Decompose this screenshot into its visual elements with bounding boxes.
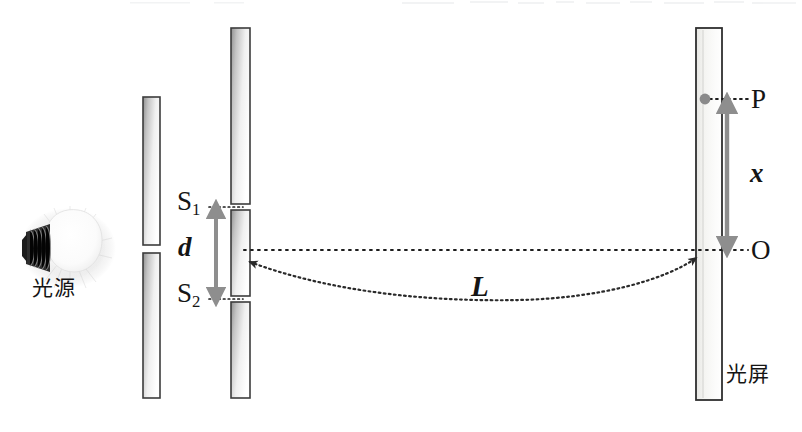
observation-screen bbox=[696, 28, 722, 400]
double-slit-plate-lower bbox=[231, 302, 250, 398]
double-slit-plate-upper bbox=[231, 28, 250, 204]
bright-fringe-dot bbox=[700, 94, 711, 105]
label-light-source: 光源 bbox=[32, 278, 76, 299]
double-slit-plate bbox=[231, 28, 250, 398]
double-slit-plate-middle bbox=[231, 210, 250, 296]
label-distance-L: L bbox=[471, 272, 489, 301]
label-observation-screen: 光屏 bbox=[726, 364, 770, 385]
scan-artifact-band bbox=[130, 1, 796, 4]
figure-canvas: S1 S2 d L x P O 光源 光屏 bbox=[0, 0, 802, 432]
label-slit-separation: d bbox=[178, 234, 192, 261]
single-slit-plate-upper bbox=[143, 97, 160, 245]
label-slit-1: S1 bbox=[177, 188, 200, 215]
label-point-p: P bbox=[751, 86, 766, 113]
label-slit-2: S2 bbox=[177, 280, 200, 307]
label-point-o: O bbox=[751, 237, 771, 264]
single-slit-plate bbox=[143, 97, 160, 398]
diagram-svg bbox=[0, 0, 802, 432]
single-slit-plate-lower bbox=[143, 253, 160, 398]
label-fringe-position-x: x bbox=[750, 160, 764, 187]
